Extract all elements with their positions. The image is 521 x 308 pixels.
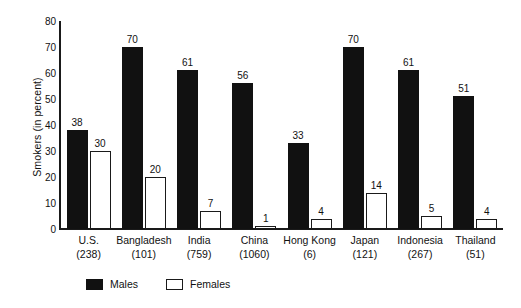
x-tick-country: Bangladesh xyxy=(116,233,171,247)
x-tick-country: India xyxy=(187,233,212,247)
x-tick-country: Thailand xyxy=(455,233,495,247)
bar-value-label: 33 xyxy=(293,130,304,141)
bar-males-japan: 70 xyxy=(343,47,364,229)
bar-group: 561 xyxy=(232,21,276,229)
x-tick-label: China(1060) xyxy=(239,233,269,261)
bar-value-label: 7 xyxy=(208,198,214,209)
x-tick-country: China xyxy=(239,233,269,247)
bar-value-label: 38 xyxy=(72,117,83,128)
x-tick-count: (101) xyxy=(116,247,171,261)
x-tick-country: U.S. xyxy=(76,233,101,247)
filled-square-icon xyxy=(86,279,103,290)
x-tick-count: (238) xyxy=(76,247,101,261)
x-tick-label: Hong Kong(6) xyxy=(283,233,336,261)
x-tick-country: Indonesia xyxy=(397,233,443,247)
legend-label: Females xyxy=(190,278,230,290)
bar-value-label: 56 xyxy=(237,70,248,81)
bar-females-u-s-: 30 xyxy=(90,151,111,229)
y-tick-80: 80 xyxy=(30,16,56,27)
bar-group: 334 xyxy=(288,21,332,229)
bar-value-label: 61 xyxy=(182,57,193,68)
x-tick-count: (267) xyxy=(397,247,443,261)
y-axis-tick-labels: 01020304050607080 xyxy=(26,0,56,308)
bar-value-label: 4 xyxy=(318,206,324,217)
x-tick-count: (6) xyxy=(283,247,336,261)
bar-value-label: 61 xyxy=(403,57,414,68)
y-tick-50: 50 xyxy=(30,94,56,105)
legend-label: Males xyxy=(110,278,138,290)
bar-value-label: 4 xyxy=(484,206,490,217)
y-tick-30: 30 xyxy=(30,146,56,157)
x-tick-count: (121) xyxy=(351,247,380,261)
bar-group: 617 xyxy=(177,21,221,229)
bar-chart-figure: Smokers (in percent) 01020304050607080 3… xyxy=(0,0,521,308)
bar-group: 3830 xyxy=(67,21,111,229)
y-tick-60: 60 xyxy=(30,68,56,79)
bar-males-thailand: 51 xyxy=(453,96,474,229)
bar-group: 514 xyxy=(453,21,497,229)
bar-males-u-s-: 38 xyxy=(67,130,88,229)
bar-value-label: 1 xyxy=(263,213,269,224)
open-square-icon xyxy=(166,279,183,290)
bar-females-japan: 14 xyxy=(366,193,387,229)
bar-value-label: 20 xyxy=(150,164,161,175)
x-tick-label: Japan(121) xyxy=(351,233,380,261)
legend-item: Males xyxy=(86,278,138,290)
legend-item: Females xyxy=(166,278,230,290)
bar-value-label: 51 xyxy=(458,83,469,94)
x-axis-tick-labels: U.S.(238)Bangladesh(101)India(759)China(… xyxy=(61,233,503,273)
chart-legend: MalesFemales xyxy=(86,278,230,290)
bar-males-hong-kong: 33 xyxy=(288,143,309,229)
bar-males-india: 61 xyxy=(177,70,198,229)
bar-group: 615 xyxy=(398,21,442,229)
x-tick-count: (759) xyxy=(187,247,212,261)
bar-females-india: 7 xyxy=(200,211,221,229)
bar-females-bangladesh: 20 xyxy=(145,177,166,229)
bar-group: 7020 xyxy=(122,21,166,229)
bar-males-bangladesh: 70 xyxy=(122,47,143,229)
y-tick-40: 40 xyxy=(30,120,56,131)
y-tick-10: 10 xyxy=(30,198,56,209)
x-tick-count: (1060) xyxy=(239,247,269,261)
y-tick-0: 0 xyxy=(30,224,56,235)
x-tick-label: Bangladesh(101) xyxy=(116,233,171,261)
x-tick-country: Hong Kong xyxy=(283,233,336,247)
bar-females-thailand: 4 xyxy=(476,219,497,229)
y-tick-20: 20 xyxy=(30,172,56,183)
bar-males-indonesia: 61 xyxy=(398,70,419,229)
x-tick-country: Japan xyxy=(351,233,380,247)
bar-females-indonesia: 5 xyxy=(421,216,442,229)
x-tick-count: (51) xyxy=(455,247,495,261)
bar-females-hong-kong: 4 xyxy=(311,219,332,229)
bar-males-china: 56 xyxy=(232,83,253,229)
bar-value-label: 14 xyxy=(371,180,382,191)
bar-value-label: 70 xyxy=(348,34,359,45)
x-tick-label: U.S.(238) xyxy=(76,233,101,261)
bar-value-label: 30 xyxy=(95,138,106,149)
plot-area: 383070206175613347014615514 xyxy=(61,21,503,229)
bar-females-china: 1 xyxy=(255,226,276,229)
x-tick-label: Thailand(51) xyxy=(455,233,495,261)
x-tick-label: Indonesia(267) xyxy=(397,233,443,261)
bar-group: 7014 xyxy=(343,21,387,229)
x-tick-label: India(759) xyxy=(187,233,212,261)
y-tick-70: 70 xyxy=(30,42,56,53)
bar-value-label: 70 xyxy=(127,34,138,45)
bar-value-label: 5 xyxy=(429,203,435,214)
